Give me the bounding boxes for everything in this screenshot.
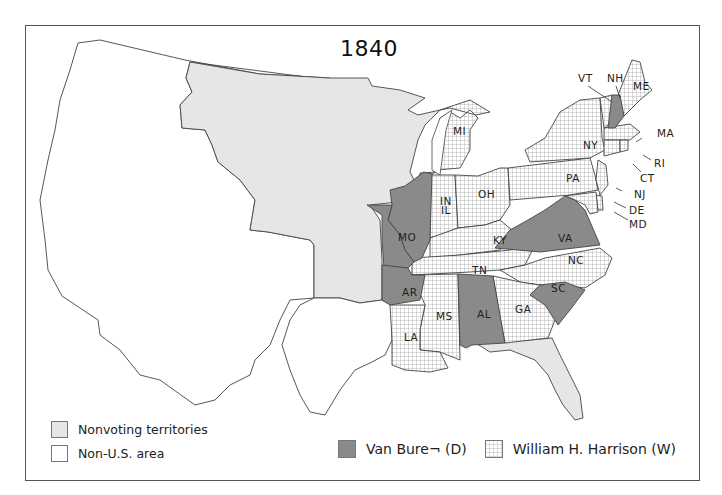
legend-item-non-us: Non-U.S. area	[51, 441, 208, 465]
label-MA: MA	[657, 127, 675, 139]
texas-republic	[282, 298, 392, 415]
legend-territory: Nonvoting territories Non-U.S. area	[51, 417, 208, 465]
label-NY: NY	[583, 139, 598, 151]
label-NH: NH	[607, 72, 624, 84]
label-PA: PA	[566, 172, 580, 184]
legend-label-nonvoting: Nonvoting territories	[78, 422, 208, 437]
label-MO: MO	[398, 231, 416, 243]
label-IL: IL	[441, 204, 451, 216]
label-ME: ME	[633, 80, 650, 92]
legend-label-non-us: Non-U.S. area	[78, 446, 164, 461]
label-NJ: NJ	[634, 188, 646, 200]
label-DE: DE	[629, 204, 645, 216]
label-KY: KY	[493, 234, 507, 246]
state-NY[interactable]	[525, 98, 605, 162]
label-VT: VT	[578, 72, 593, 84]
label-NC: NC	[568, 254, 584, 266]
label-AR: AR	[402, 286, 417, 298]
map-title: 1840	[340, 36, 398, 61]
label-GA: GA	[515, 303, 532, 315]
florida-territory	[474, 338, 583, 420]
legend-candidates: Van Bure¬ (D) William H. Harrison (W)	[338, 440, 694, 458]
label-SC: SC	[551, 282, 566, 294]
state-CT[interactable]	[604, 140, 620, 156]
label-CT: CT	[640, 172, 655, 184]
state-RI[interactable]	[620, 140, 628, 152]
legend-item-nonvoting: Nonvoting territories	[51, 417, 208, 441]
label-MD: MD	[629, 218, 647, 230]
legend-label-van-buren: Van Bure¬ (D)	[366, 441, 467, 457]
label-LA: LA	[404, 331, 419, 343]
non-us-swatch	[51, 445, 68, 462]
label-AL: AL	[477, 308, 491, 320]
label-TN: TN	[471, 264, 487, 276]
label-VA: VA	[558, 232, 573, 244]
label-OH: OH	[478, 188, 495, 200]
label-MS: MS	[436, 310, 453, 322]
van-buren-swatch	[338, 440, 356, 458]
nonvoting-swatch	[51, 421, 68, 438]
harrison-swatch	[485, 440, 503, 458]
legend-label-harrison: William H. Harrison (W)	[513, 441, 676, 457]
label-MI: MI	[453, 125, 466, 137]
label-RI: RI	[654, 157, 665, 169]
